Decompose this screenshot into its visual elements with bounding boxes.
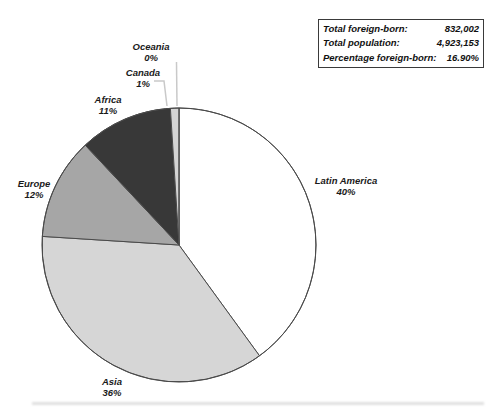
summary-label: Percentage foreign-born: [323,51,437,65]
slice-label-name: Europe [18,178,51,189]
summary-value: 832,002 [445,22,479,36]
slice-label-name: Asia [102,376,122,387]
slice-label-name: Africa [95,94,122,105]
slice-label-pct: 0% [133,52,170,63]
summary-row-foreign-born: Total foreign-born: 832,002 [323,22,479,36]
slice-label-oceania: Oceania 0% [133,41,170,63]
slice-label-asia: Asia 36% [102,376,122,398]
slice-label-name: Canada [126,67,160,78]
summary-stats-box: Total foreign-born: 832,002 Total popula… [318,19,484,68]
slice-label-pct: 36% [102,387,122,398]
slice-label-europe: Europe 12% [18,178,51,200]
summary-row-total-population: Total population: 4,923,153 [323,36,479,50]
slice-label-name: Oceania [133,41,170,52]
slice-label-africa: Africa 11% [95,94,122,116]
slice-label-canada: Canada 1% [126,67,160,89]
scan-artifact-line [32,402,484,405]
slice-label-latin-america: Latin America 40% [315,175,377,197]
summary-value: 16.90% [447,51,479,65]
summary-value: 4,923,153 [437,36,479,50]
slice-label-pct: 40% [315,186,377,197]
summary-label: Total population: [323,36,400,50]
slice-label-pct: 11% [95,105,122,116]
figure-page: Latin America 40% Asia 36% Europe 12% Af… [0,0,502,407]
summary-row-pct-foreign-born: Percentage foreign-born: 16.90% [323,51,479,65]
slice-label-pct: 12% [18,189,51,200]
slice-label-pct: 1% [126,78,160,89]
leader-line-oceania [177,62,178,106]
summary-label: Total foreign-born: [323,22,408,36]
slice-label-name: Latin America [315,175,377,186]
